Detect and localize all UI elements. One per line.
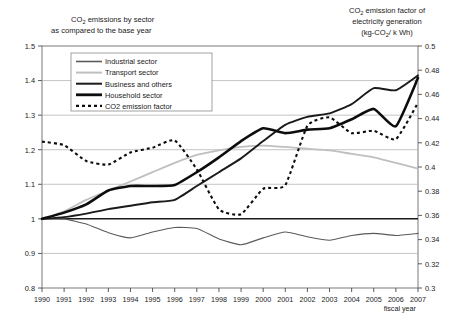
x-tick-label: 1997	[189, 295, 205, 304]
y-tick-right-label: 0.3	[425, 284, 435, 293]
y-tick-right-label: 0.36	[425, 211, 439, 220]
x-tick-label: 1995	[145, 295, 161, 304]
x-tick-label: 1990	[34, 295, 50, 304]
legend-label: Business and others	[105, 80, 172, 89]
y-tick-left-label: 0.8	[25, 284, 35, 293]
x-tick-label: 2007	[410, 295, 426, 304]
y-tick-left-label: 1.2	[25, 146, 35, 155]
y-tick-right-label: 0.4	[425, 163, 435, 172]
co2-emissions-line-chart: CO2 emissions by sector as compared to t…	[0, 0, 459, 322]
x-tick-label: 1998	[211, 295, 227, 304]
x-tick-label: 1996	[167, 295, 183, 304]
chart-title-right-line3: (kg-CO2/ k Wh)	[361, 28, 413, 38]
y-tick-right-label: 0.34	[425, 235, 439, 244]
chart-container: CO2 emissions by sector as compared to t…	[0, 0, 459, 322]
x-tick-label: 1991	[56, 295, 72, 304]
x-tick-label: 1994	[122, 295, 138, 304]
x-tick-label: 2003	[322, 295, 338, 304]
chart-title-left-line1: CO2 emissions by sector	[71, 15, 155, 25]
legend-label: Industrial sector	[105, 57, 158, 66]
y-tick-right-label: 0.46	[425, 90, 439, 99]
x-tick-label: 2004	[344, 295, 360, 304]
legend-label: CO2 emission factor	[105, 102, 172, 111]
x-axis-label: fiscal year	[384, 304, 417, 313]
x-axis-ticks: 1990199119921993199419951996199719981999…	[34, 288, 426, 304]
y-tick-left-label: 1	[31, 215, 35, 224]
chart-title-left-line2: as compared to the base year	[51, 26, 152, 35]
y-tick-right-label: 0.38	[425, 187, 439, 196]
y-tick-right-label: 0.5	[425, 42, 435, 51]
legend-label: Household sector	[105, 91, 163, 100]
y-tick-right-label: 0.48	[425, 66, 439, 75]
y-axis-right-ticks: 0.50.480.460.440.420.40.380.360.340.320.…	[418, 42, 439, 293]
title-left-rest: emissions by sector	[86, 15, 155, 24]
x-tick-label: 2002	[299, 295, 315, 304]
y-axis-left-ticks: 1.51.41.31.21.110.90.8	[25, 42, 42, 293]
x-tick-label: 1999	[233, 295, 249, 304]
y-tick-left-label: 1.4	[25, 76, 35, 85]
x-tick-label: 2006	[388, 295, 404, 304]
x-tick-label: 1993	[100, 295, 116, 304]
y-tick-left-label: 1.1	[25, 180, 35, 189]
x-tick-label: 2001	[277, 295, 293, 304]
chart-title-right-line1: CO2 emission factor of	[349, 6, 426, 16]
y-tick-right-label: 0.32	[425, 260, 439, 269]
y-tick-left-label: 0.9	[25, 249, 35, 258]
chart-legend: Industrial sectorTransport sectorBusines…	[71, 53, 212, 111]
legend-label: Transport sector	[105, 68, 159, 77]
y-tick-right-label: 0.42	[425, 139, 439, 148]
x-tick-label: 1992	[78, 295, 94, 304]
x-tick-label: 2005	[366, 295, 382, 304]
y-tick-right-label: 0.44	[425, 114, 439, 123]
x-tick-label: 2000	[255, 295, 271, 304]
y-tick-left-label: 1.3	[25, 111, 35, 120]
title-left-co: CO	[71, 15, 82, 24]
chart-title-right-line2: electricity generation	[352, 17, 422, 26]
y-tick-left-label: 1.5	[25, 42, 35, 51]
